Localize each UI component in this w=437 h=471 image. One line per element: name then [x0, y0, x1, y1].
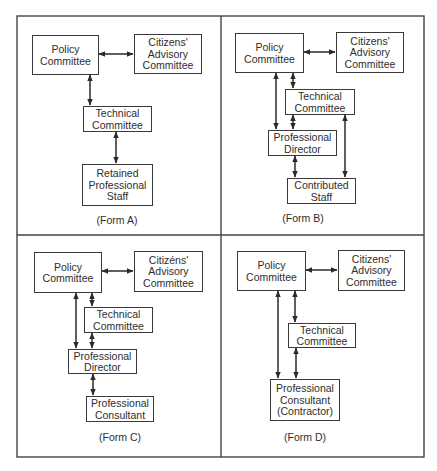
- box-citizens-label-line: Advisory: [148, 265, 189, 277]
- box-citizens-label-line: Committee: [346, 276, 397, 288]
- box-policy-label-line: Policy: [51, 43, 80, 55]
- box-technical: TechnicalCommittee: [85, 308, 153, 333]
- box-technical-label-line: Technical: [97, 308, 141, 320]
- box-retained-label-line: Staff: [107, 190, 128, 202]
- frame: [17, 16, 424, 457]
- box-citizens: Citizens'AdvisoryCommittee: [337, 33, 404, 73]
- box-contributed-label-line: Staff: [311, 191, 332, 203]
- box-policy: PolicyCommittee: [33, 36, 99, 75]
- box-director-label-line: Director: [84, 361, 121, 373]
- box-consultant-label-line: Consultant: [95, 409, 145, 421]
- box-technical-label-line: Technical: [96, 107, 140, 119]
- box-policy-label-line: Policy: [54, 261, 83, 273]
- box-citizens-label-line: Advisory: [148, 48, 189, 60]
- box-consultant-label-line: Professional: [276, 382, 334, 394]
- box-policy: PolicyCommittee: [35, 253, 102, 293]
- box-citizens: Citizens'AdvisoryCommittee: [135, 35, 202, 74]
- panel-form-b: PolicyCommitteeCitizens'AdvisoryCommitte…: [236, 33, 404, 225]
- box-citizens: Citizens'AdvisoryCommittee: [339, 251, 405, 291]
- box-citizens-label-line: Citizéns': [149, 254, 188, 266]
- box-technical-label-line: Committee: [93, 320, 144, 332]
- box-director-label-line: Director: [284, 143, 321, 155]
- box-consultant: ProfessionalConsultant: [87, 397, 154, 422]
- box-retained-label-line: Retained: [96, 167, 138, 179]
- panel-form-c: PolicyCommitteeCitizéns'AdvisoryCommitte…: [35, 252, 203, 444]
- box-director: ProfessionalDirector: [69, 350, 137, 374]
- form-label: (Form B): [282, 212, 323, 224]
- box-contributed-label-line: Contributed: [294, 179, 348, 191]
- box-retained-label-line: Professional: [89, 179, 147, 191]
- box-citizens-label-line: Advisory: [350, 46, 391, 58]
- box-policy: PolicyCommittee: [238, 252, 306, 291]
- box-retained: RetainedProfessionalStaff: [83, 165, 153, 206]
- box-contributed: ContributedStaff: [288, 179, 356, 204]
- box-director-label-line: Professional: [274, 131, 332, 143]
- box-technical: TechnicalCommittee: [84, 107, 152, 132]
- box-technical-label-line: Technical: [298, 90, 342, 102]
- box-citizens-label-line: Committee: [345, 58, 396, 70]
- box-policy-label-line: Committee: [246, 271, 297, 283]
- box-technical-label-line: Committee: [297, 335, 348, 347]
- panel-form-a: PolicyCommitteeCitizens'AdvisoryCommitte…: [33, 35, 202, 227]
- box-technical: TechnicalCommittee: [286, 90, 355, 115]
- box-citizens-label-line: Citizens': [148, 36, 187, 48]
- box-policy: PolicyCommittee: [236, 34, 304, 73]
- box-consultant: ProfessionalConsultant(Contractor): [271, 380, 340, 421]
- box-citizens-label-line: Committee: [143, 59, 194, 71]
- box-technical-label-line: Committee: [295, 102, 346, 114]
- form-label: (Form A): [97, 214, 138, 226]
- box-policy-label-line: Committee: [244, 53, 295, 65]
- box-director: ProfessionalDirector: [269, 131, 337, 156]
- box-technical-label-line: Technical: [300, 324, 344, 336]
- box-citizens: Citizéns'AdvisoryCommittee: [135, 252, 203, 292]
- box-consultant-label-line: (Contractor): [277, 405, 333, 417]
- box-policy-label-line: Policy: [255, 41, 284, 53]
- box-policy-label-line: Committee: [43, 272, 94, 284]
- box-technical-label-line: Committee: [92, 119, 143, 131]
- box-policy-label-line: Committee: [40, 55, 91, 67]
- box-citizens-label-line: Citizens': [352, 253, 391, 265]
- box-consultant-label-line: Professional: [91, 397, 149, 409]
- form-label: (Form D): [284, 431, 326, 443]
- box-citizens-label-line: Citizens': [350, 35, 389, 47]
- box-citizens-label-line: Committee: [143, 277, 194, 289]
- box-technical: TechnicalCommittee: [289, 324, 356, 348]
- box-consultant-label-line: Consultant: [280, 394, 330, 406]
- box-policy-label-line: Policy: [257, 259, 286, 271]
- box-director-label-line: Professional: [74, 350, 132, 362]
- panel-form-d: PolicyCommitteeCitizens'AdvisoryCommitte…: [238, 251, 405, 444]
- form-label: (Form C): [99, 431, 141, 443]
- organization-forms-diagram: PolicyCommitteeCitizens'AdvisoryCommitte…: [0, 0, 437, 471]
- box-citizens-label-line: Advisory: [351, 264, 392, 276]
